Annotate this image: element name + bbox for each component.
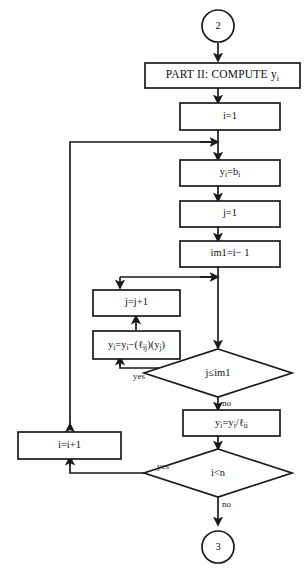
box-i-incr <box>18 432 121 459</box>
box-init-j <box>180 201 280 227</box>
circle-connector-3 <box>202 531 234 563</box>
circle-connector-2 <box>202 10 234 42</box>
diamond-outer <box>144 449 292 497</box>
box-part-header <box>145 63 300 88</box>
box-init-i <box>180 103 280 130</box>
flowchart-canvas: 2 3 PART II: COMPUTE yi i=1 yi=bi j=1 im… <box>0 0 308 572</box>
box-im1 <box>180 241 280 267</box>
flowchart-graphics <box>0 0 308 572</box>
box-y-divide <box>183 410 280 436</box>
box-y-eq-b <box>180 160 280 186</box>
box-y-update <box>93 331 180 359</box>
box-j-incr <box>93 290 180 316</box>
